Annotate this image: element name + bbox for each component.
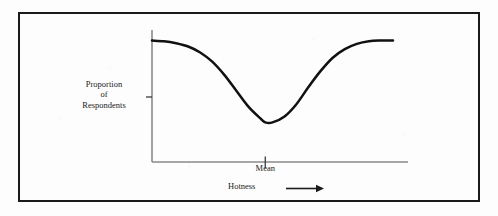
x-axis-label: Hotness: [228, 182, 255, 191]
y-axis-label: Proportion of Respondents: [60, 79, 148, 110]
y-axis-label-line-1: Proportion: [60, 79, 148, 89]
figure-root: Proportion of Respondents Mean Hotness: [0, 0, 498, 216]
mean-annotation-label: Mean: [239, 164, 291, 173]
y-axis-label-line-2: of: [60, 89, 148, 99]
y-axis-label-line-3: Respondents: [60, 100, 148, 110]
